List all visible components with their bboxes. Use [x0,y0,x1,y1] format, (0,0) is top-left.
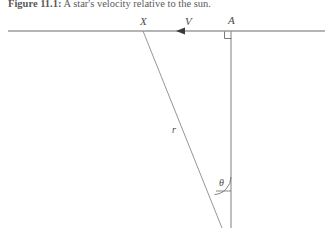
label-point-a: A [228,14,235,26]
velocity-arrowhead-icon [176,28,185,35]
label-radius-r: r [172,124,176,135]
label-velocity: V [185,15,192,27]
diagonal-line-r [143,31,222,228]
label-angle-theta: θ [219,177,224,188]
label-point-x: X [140,15,147,27]
figure-page: Figure 11.1: A star's velocity relative … [0,0,331,228]
star-velocity-diagram [0,0,331,228]
